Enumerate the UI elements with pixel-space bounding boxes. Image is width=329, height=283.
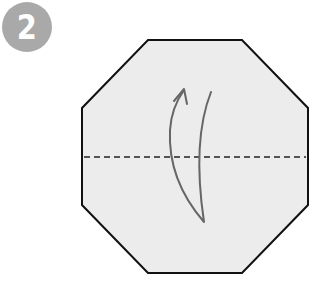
octagon-fold-diagram [0, 0, 329, 283]
